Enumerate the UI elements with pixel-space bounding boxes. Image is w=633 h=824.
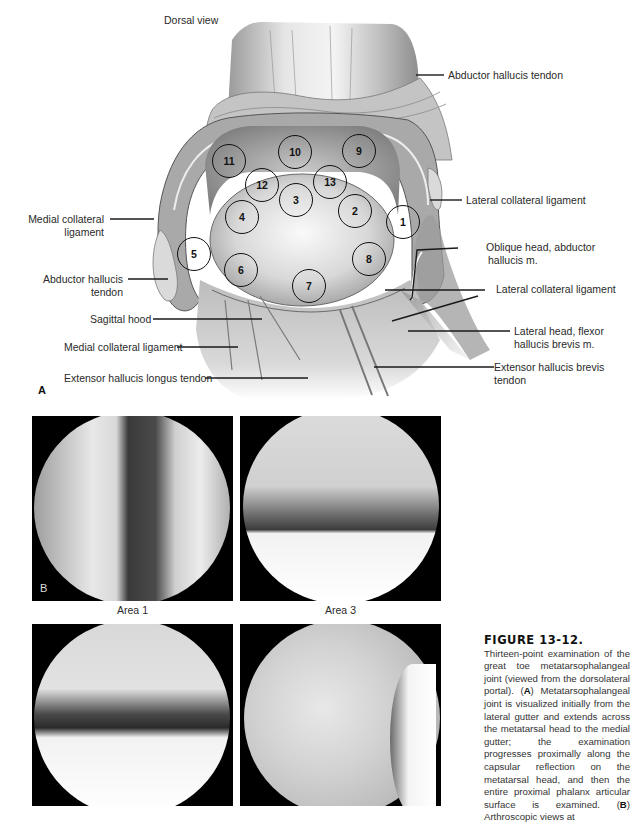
label-line-1: Oblique head, abductor [486,241,595,253]
label-line-2: tendon [494,374,526,386]
label-medial-collateral-ligament-left: Medial collateral ligament [20,213,104,239]
label-sagittal-hood: Sagittal hood [90,313,151,326]
caption-panel-b-text: Arthroscopic views at [484,811,575,822]
exam-point-number: 6 [238,264,244,276]
arthroscopic-photo-lower-right [240,624,441,806]
exam-point-circle: 11 [212,144,246,178]
exam-point-circle: 10 [278,135,312,169]
label-lateral-collateral-ligament-top: Lateral collateral ligament [466,194,586,207]
exam-point-number: 7 [306,280,312,292]
label-oblique-head: Oblique head, abductor hallucis m. [486,241,595,267]
label-line-2: tendon [91,286,123,298]
panel-a-letter: A [38,384,46,396]
figure-caption: FIGURE 13-12. Thirteen-point examination… [484,634,630,824]
arthroscopic-photo-area-1: B [32,416,233,601]
figure-number: FIGURE 13-12. [484,634,630,647]
label-medial-collateral-ligament-lower: Medial collateral ligament [64,341,182,354]
exam-point-circle: 6 [224,253,258,287]
label-extensor-hallucis-brevis: Extensor hallucis brevis tendon [494,361,604,387]
label-extensor-hallucis-longus: Extensor hallucis longus tendon [64,372,212,385]
exam-point-circle: 7 [292,269,326,303]
exam-point-circle: 13 [313,165,347,199]
photo-caption-area-3: Area 3 [240,604,441,616]
exam-point-circle: 3 [279,183,313,217]
exam-point-number: 3 [293,194,299,206]
label-line-1: Lateral head, flexor [514,325,604,337]
photo-caption-area-1: Area 1 [32,604,233,616]
panel-b-letter: B [40,582,47,594]
exam-point-circle: 4 [225,200,259,234]
label-line-2: hallucis m. [486,254,538,266]
label-line-1: Abductor hallucis [43,273,123,285]
label-line-2: hallucis brevis m. [514,338,595,350]
exam-point-circle: 2 [338,194,372,228]
exam-point-circle: 1 [386,205,420,239]
label-line-1: Medial collateral [28,213,104,225]
exam-point-number: 9 [356,145,362,157]
caption-panel-a-text: Metatarsophalangeal joint is visualized … [484,685,630,809]
label-line-1: Extensor hallucis brevis [494,361,604,373]
exam-point-circle: 12 [245,168,279,202]
exam-point-number: 10 [289,146,301,158]
arthroscopic-photo-area-3 [240,416,441,601]
exam-point-number: 1 [400,216,406,228]
exam-point-circle: 8 [352,242,386,276]
arthroscopic-photo-lower-left [32,624,233,806]
exam-point-number: 12 [256,179,268,191]
caption-key-b: B [620,799,627,810]
exam-point-number: 8 [366,253,372,265]
label-abductor-hallucis-tendon-left: Abductor hallucis tendon [30,273,123,299]
label-lateral-collateral-ligament-lower: Lateral collateral ligament [496,283,616,296]
view-label: Dorsal view [164,14,218,27]
caption-key-a: A [524,685,531,696]
label-abductor-hallucis-tendon-top: Abductor hallucis tendon [448,69,563,82]
label-line-2: ligament [64,226,104,238]
exam-point-number: 5 [191,248,197,260]
exam-point-circle: 9 [342,134,376,168]
exam-point-number: 2 [352,205,358,217]
exam-point-number: 11 [223,155,234,167]
label-lateral-head-flexor: Lateral head, flexor hallucis brevis m. [514,325,604,351]
exam-point-number: 4 [239,211,245,223]
exam-point-circle: 5 [177,237,211,271]
exam-point-number: 13 [324,176,336,188]
